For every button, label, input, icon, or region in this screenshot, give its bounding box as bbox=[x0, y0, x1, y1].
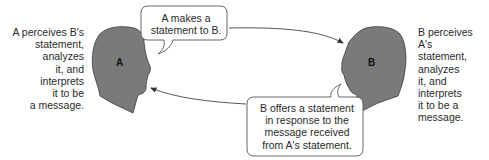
text-line: interprets bbox=[6, 75, 84, 87]
arrow-b-to-a bbox=[151, 88, 246, 104]
head-b-letter: B bbox=[368, 57, 375, 68]
text-line: in response to the bbox=[253, 114, 361, 126]
bubble-a-text: A makes a statement to B. bbox=[146, 12, 226, 36]
text-line: it, and bbox=[418, 75, 488, 87]
text-line: statement to B. bbox=[146, 24, 226, 36]
person-b-description: B perceives A's statement, analyzes it, … bbox=[418, 26, 488, 124]
arrow-a-to-b bbox=[229, 28, 343, 43]
text-line: it to be a bbox=[418, 99, 488, 111]
text-line: B perceives A's bbox=[418, 26, 488, 50]
head-a-silhouette bbox=[92, 27, 150, 113]
text-line: interprets bbox=[418, 87, 488, 99]
text-line: A perceives B's bbox=[6, 26, 84, 38]
text-line: A makes a bbox=[146, 12, 226, 24]
text-line: message received bbox=[253, 126, 361, 138]
text-line: it, and bbox=[6, 63, 84, 75]
text-line: B offers a statement bbox=[253, 102, 361, 114]
text-line: from A's statement. bbox=[253, 139, 361, 151]
head-a-letter: A bbox=[116, 57, 123, 68]
bubble-b-text: B offers a statement in response to the … bbox=[253, 102, 361, 151]
person-a-description: A perceives B's statement, analyzes it, … bbox=[6, 26, 84, 111]
text-line: statement, bbox=[418, 50, 488, 62]
text-line: message. bbox=[418, 111, 488, 123]
text-line: it to be bbox=[6, 87, 84, 99]
text-line: a message. bbox=[6, 99, 84, 111]
text-line: statement, bbox=[6, 38, 84, 50]
text-line: analyzes bbox=[418, 63, 488, 75]
text-line: analyzes bbox=[6, 50, 84, 62]
